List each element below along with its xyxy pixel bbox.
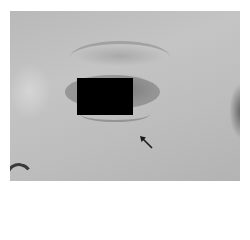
upper-eyelid-crease: [70, 41, 170, 74]
nose-edge: [10, 161, 34, 181]
privacy-redaction-box: [77, 78, 133, 115]
arrow-icon: [139, 135, 153, 149]
